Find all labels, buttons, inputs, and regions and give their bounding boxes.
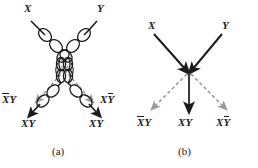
output-arrow-recombinant-left-b <box>154 74 187 107</box>
input-arrow-y-b <box>192 34 222 70</box>
panel-a-graphics <box>0 0 129 168</box>
label-pre: X <box>216 116 224 128</box>
label-parental-center-b: XY <box>178 117 192 128</box>
label-recombinant-left-b: XY <box>137 116 151 128</box>
parental-arrow-left-a <box>31 104 40 114</box>
panel-b: X Y XY XY XY (b) <box>129 0 258 168</box>
label-parent-x-b: X <box>148 20 156 31</box>
overline-x: X <box>137 116 145 128</box>
label-recombinant-left-a: XY <box>2 93 16 105</box>
label-parental-right-a: XY <box>89 118 103 129</box>
crossing-over-figure: X Y XY XY XY XY (a) <box>0 0 258 168</box>
label-recombinant-right-a: XY <box>100 93 114 105</box>
caption-b: (b) <box>178 145 191 157</box>
label-recombinant-right-b: XY <box>216 116 230 128</box>
label-rest: Y <box>145 116 152 128</box>
overline-x: X <box>2 93 10 105</box>
label-pre: X <box>100 93 108 105</box>
panel-a: X Y XY XY XY XY (a) <box>0 0 129 168</box>
label-parent-x-a: X <box>24 3 32 14</box>
label-parent-y-b: Y <box>222 20 229 31</box>
parental-arrow-right-a <box>89 104 98 114</box>
caption-a: (a) <box>52 145 64 157</box>
overline-y: Y <box>224 116 231 128</box>
label-rest: Y <box>10 93 17 105</box>
output-arrow-recombinant-right-b <box>191 74 224 107</box>
overline-y: Y <box>108 93 115 105</box>
label-parent-y-a: Y <box>97 3 104 14</box>
input-arrow-x-b <box>154 34 186 70</box>
label-parental-left-a: XY <box>21 118 35 129</box>
